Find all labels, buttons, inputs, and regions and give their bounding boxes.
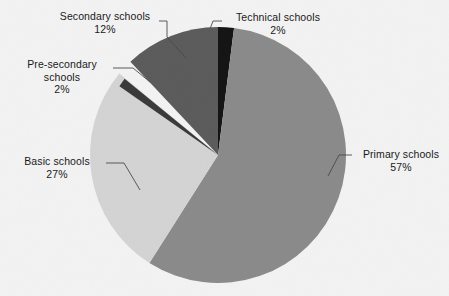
slice-label-secondary-name: Secondary schools: [50, 10, 160, 23]
slice-label-primary-percent: 57%: [355, 161, 447, 174]
slice-label-primary: Primary schools 57%: [355, 148, 447, 173]
slice-label-basic-name: Basic schools: [8, 155, 106, 168]
slice-label-primary-name: Primary schools: [355, 148, 447, 161]
slice-label-technical: Technical schools 2%: [223, 11, 333, 36]
pie-chart-figure: Secondary schools 12% Pre-secondary scho…: [0, 0, 449, 296]
slice-label-presecondary-name-line1: Pre-secondary: [10, 58, 114, 71]
slice-label-presecondary-name-line2: schools: [10, 71, 114, 84]
slice-label-basic: Basic schools 27%: [8, 155, 106, 180]
slice-label-presecondary: Pre-secondary schools 2%: [10, 58, 114, 96]
slice-label-technical-percent: 2%: [223, 24, 333, 37]
slice-label-secondary-percent: 12%: [50, 23, 160, 36]
slice-label-basic-percent: 27%: [8, 168, 106, 181]
slice-label-technical-name: Technical schools: [223, 11, 333, 24]
slice-label-presecondary-percent: 2%: [10, 83, 114, 96]
slice-label-secondary: Secondary schools 12%: [50, 10, 160, 35]
